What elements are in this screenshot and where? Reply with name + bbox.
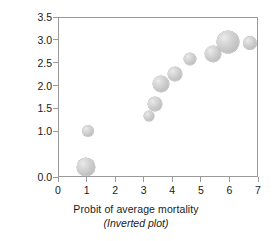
- y-axis-tick-label: 2.5: [26, 58, 52, 68]
- x-axis-tick-mark: [172, 177, 173, 182]
- x-axis-tick-label: 7: [248, 184, 268, 196]
- x-axis-tick-label: 1: [77, 184, 97, 196]
- x-axis-subtitle: (Inverted plot): [0, 217, 272, 230]
- y-axis-tick-mark: [53, 85, 58, 86]
- x-axis-tick-mark: [143, 177, 144, 182]
- y-axis-tick-mark: [53, 17, 58, 18]
- data-point-bubble: [243, 37, 256, 50]
- x-axis-tick-mark: [200, 177, 201, 182]
- x-axis-tick-mark: [58, 177, 59, 182]
- data-point-bubble: [168, 67, 182, 81]
- x-axis-tick-mark: [258, 177, 259, 182]
- bubble-chart-figure: Log concentration 0.01.01.52.02.53.03.5 …: [0, 0, 272, 241]
- x-axis-tick-label: 4: [162, 184, 182, 196]
- y-axis-tick-label: 3.5: [26, 12, 52, 22]
- data-point-bubble: [82, 126, 93, 137]
- data-point-bubble: [144, 111, 154, 121]
- x-axis-tick-label: 2: [105, 184, 125, 196]
- data-point-bubble: [217, 31, 239, 53]
- y-axis-tick-label: 0.0: [26, 172, 52, 182]
- y-axis-tick-label: 2.0: [26, 81, 52, 91]
- x-axis-tick-label: 5: [191, 184, 211, 196]
- y-axis-tick-label: 1.0: [26, 126, 52, 136]
- y-axis-tick-label: 1.5: [26, 103, 52, 113]
- y-axis-tick-mark: [53, 62, 58, 63]
- y-axis-tick-label: 3.0: [26, 35, 52, 45]
- data-point-bubble: [148, 97, 162, 111]
- y-axis-tick-mark: [53, 39, 58, 40]
- x-axis-tick-label: 6: [219, 184, 239, 196]
- y-axis-tick-mark: [53, 131, 58, 132]
- x-axis-tick-label: 3: [134, 184, 154, 196]
- x-axis-title: Probit of average mortality: [0, 203, 272, 216]
- y-axis-tick-mark: [53, 108, 58, 109]
- x-axis-tick-mark: [86, 177, 87, 182]
- x-axis-tick-mark: [115, 177, 116, 182]
- data-point-bubble: [153, 76, 169, 92]
- plot-area: [58, 17, 258, 177]
- data-point-bubble: [77, 158, 95, 176]
- x-axis-tick-label: 0: [48, 184, 68, 196]
- data-point-bubble: [184, 53, 196, 65]
- x-axis-tick-mark: [229, 177, 230, 182]
